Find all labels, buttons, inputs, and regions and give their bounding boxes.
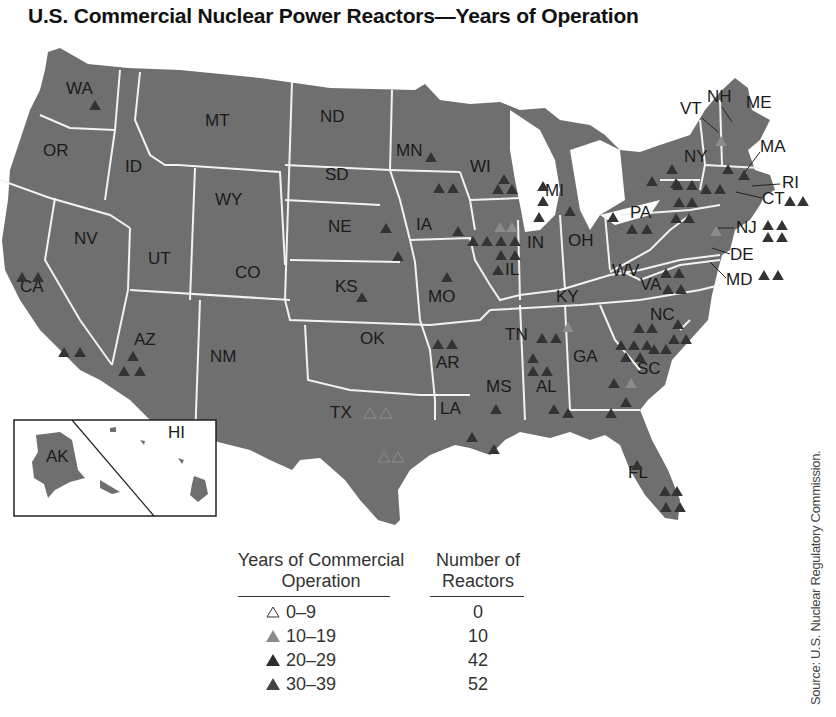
svg-text:MO: MO <box>428 287 455 306</box>
svg-text:AR: AR <box>436 353 460 372</box>
svg-text:NM: NM <box>210 347 236 366</box>
svg-text:NJ: NJ <box>736 218 757 237</box>
legend-rule-left <box>238 596 390 597</box>
svg-text:OR: OR <box>43 141 69 160</box>
legend-row: 20–29 42 <box>232 650 562 672</box>
svg-text:WI: WI <box>470 157 491 176</box>
svg-text:IA: IA <box>416 215 433 234</box>
svg-text:NH: NH <box>707 87 732 106</box>
svg-text:GA: GA <box>573 347 598 366</box>
svg-text:TX: TX <box>330 403 352 422</box>
svg-text:KS: KS <box>335 277 358 296</box>
medium-dark-triangle-icon <box>266 678 280 690</box>
legend-row: 0–9 0 <box>232 602 562 624</box>
svg-text:TN: TN <box>505 325 528 344</box>
svg-text:VA: VA <box>640 275 662 294</box>
svg-text:MD: MD <box>726 270 752 289</box>
legend-count-header: Number of Reactors <box>428 550 528 592</box>
svg-text:WA: WA <box>66 79 93 98</box>
svg-text:MN: MN <box>396 141 422 160</box>
ak-hi-inset: AK HI <box>14 420 216 516</box>
svg-text:MT: MT <box>205 111 230 130</box>
svg-text:OH: OH <box>568 231 594 250</box>
svg-text:VT: VT <box>680 99 702 118</box>
svg-text:AL: AL <box>536 377 557 396</box>
svg-text:WV: WV <box>612 261 640 280</box>
svg-text:ID: ID <box>125 157 142 176</box>
svg-text:KY: KY <box>556 287 579 306</box>
svg-text:IL: IL <box>505 260 519 279</box>
svg-text:WY: WY <box>215 190 242 209</box>
svg-text:ND: ND <box>320 107 345 126</box>
legend-row: 30–39 52 <box>232 674 562 696</box>
svg-text:NC: NC <box>650 305 675 324</box>
legend-row: 10–19 10 <box>232 626 562 648</box>
svg-text:HI: HI <box>168 423 185 442</box>
svg-text:MS: MS <box>486 377 512 396</box>
svg-text:SD: SD <box>325 165 349 184</box>
dark-triangle-icon <box>266 654 280 666</box>
open-triangle-icon <box>266 606 280 618</box>
svg-text:AZ: AZ <box>134 330 156 349</box>
svg-text:MA: MA <box>760 137 786 156</box>
light-triangle-icon <box>266 630 280 642</box>
svg-text:IN: IN <box>527 233 544 252</box>
legend-rule-right <box>430 596 524 597</box>
svg-text:NV: NV <box>74 229 98 248</box>
svg-text:OK: OK <box>360 329 385 348</box>
svg-text:CT: CT <box>762 189 785 208</box>
source-credit: Source: U.S. Nuclear Regulatory Commissi… <box>808 451 823 705</box>
svg-text:DE: DE <box>730 245 754 264</box>
svg-text:NE: NE <box>328 217 352 236</box>
svg-text:ME: ME <box>746 93 772 112</box>
svg-text:PA: PA <box>630 203 652 222</box>
svg-text:NY: NY <box>684 147 708 166</box>
svg-text:LA: LA <box>440 399 461 418</box>
legend-years-header: Years of Commercial Operation <box>232 550 410 592</box>
svg-text:AK: AK <box>46 447 69 466</box>
svg-text:CO: CO <box>235 263 261 282</box>
svg-text:UT: UT <box>148 249 171 268</box>
